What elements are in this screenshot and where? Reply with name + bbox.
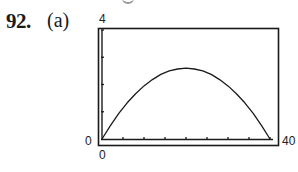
graph-frame bbox=[99, 29, 279, 146]
calculator-graph bbox=[0, 0, 298, 172]
axis-ticks bbox=[101, 30, 270, 140]
data-curve bbox=[102, 68, 270, 139]
